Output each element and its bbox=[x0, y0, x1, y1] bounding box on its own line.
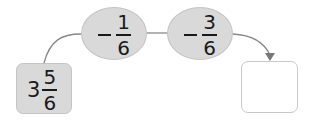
arrowhead-icon bbox=[265, 53, 275, 61]
start-numerator: 5 bbox=[44, 67, 57, 87]
answer-box[interactable] bbox=[241, 61, 298, 113]
step-1-numerator: 1 bbox=[117, 12, 130, 32]
step-2-numerator: 3 bbox=[203, 12, 216, 32]
start-whole: 3 bbox=[27, 78, 40, 102]
start-denominator: 6 bbox=[44, 93, 57, 113]
minus-icon bbox=[98, 34, 111, 36]
minus-icon bbox=[184, 34, 197, 36]
step-2-ellipse: 3 6 bbox=[167, 7, 233, 60]
step-1-denominator: 6 bbox=[117, 38, 130, 58]
start-value-box: 3 5 6 bbox=[16, 63, 72, 114]
step-2-denominator: 6 bbox=[203, 38, 216, 58]
step-1-ellipse: 1 6 bbox=[81, 7, 147, 60]
